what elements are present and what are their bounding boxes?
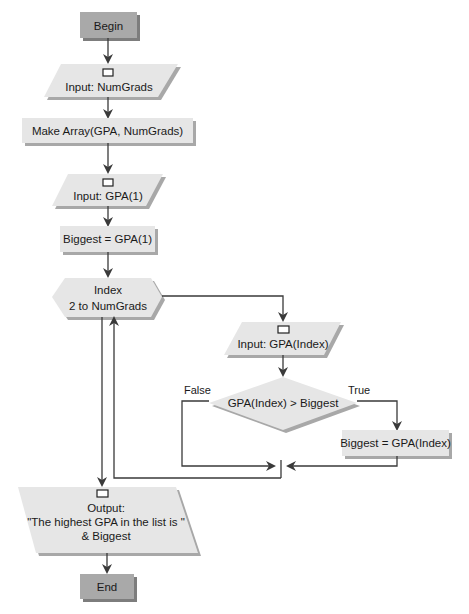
- biggest-update-node: Biggest = GPA(Index): [340, 430, 452, 459]
- begin-label: Begin: [94, 20, 123, 32]
- loop-label-line2: 2 to NumGrads: [69, 300, 147, 312]
- loop-node: Index: [52, 278, 165, 320]
- input-gpa1-label: Input: GPA(1): [73, 190, 143, 202]
- begin-terminal: Begin: [80, 12, 140, 41]
- true-label: True: [348, 384, 370, 396]
- io-icon: [103, 179, 113, 186]
- io-icon: [97, 490, 108, 497]
- output-label-line3: & Biggest: [81, 530, 131, 542]
- io-icon: [103, 69, 113, 76]
- make-array-node: Make Array(GPA, NumGrads): [22, 118, 196, 146]
- output-label-line1: Output:: [87, 502, 125, 514]
- input-numgrads-node: Input: NumGrads: [44, 64, 181, 100]
- output-label-line2: "The highest GPA in the list is ": [27, 516, 185, 528]
- biggest-init-node: Biggest = GPA(1): [60, 226, 158, 255]
- loop-label-line1: Index: [94, 284, 122, 296]
- end-terminal: End: [80, 574, 137, 602]
- input-gpa-index-node: Input: GPA(Index): [224, 322, 344, 358]
- biggest-update-label: Biggest = GPA(Index): [340, 437, 451, 449]
- input-numgrads-label: Input: NumGrads: [65, 81, 153, 93]
- make-array-label: Make Array(GPA, NumGrads): [32, 125, 183, 137]
- input-gpa-index-label: Input: GPA(Index): [237, 338, 328, 350]
- biggest-init-label: Biggest = GPA(1): [63, 233, 152, 245]
- decision-label: GPA(Index) > Biggest: [228, 397, 339, 409]
- false-label: False: [184, 384, 211, 396]
- flowchart: Begin Input: NumGrads Make Array(GPA, Nu…: [0, 0, 469, 614]
- io-icon: [278, 326, 289, 333]
- decision-node: GPA(Index) > Biggest: [209, 377, 360, 433]
- output-node: Output: "The highest GPA in the list is …: [18, 487, 201, 556]
- input-gpa1-node: Input: GPA(1): [52, 174, 166, 209]
- arrow-true-to-update: [357, 401, 397, 429]
- end-label: End: [97, 581, 117, 593]
- arrow-loop-to-input-index: [162, 296, 283, 320]
